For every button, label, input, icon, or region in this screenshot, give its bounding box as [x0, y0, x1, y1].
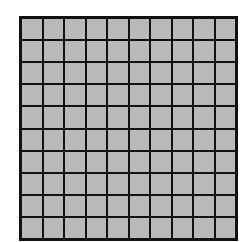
- grid-cell: [151, 152, 171, 172]
- grid-cell: [44, 41, 64, 61]
- grid-cell: [65, 41, 85, 61]
- grid-cell: [216, 130, 236, 150]
- grid-cell: [22, 41, 42, 61]
- grid-cell: [108, 130, 128, 150]
- grid-cell: [44, 107, 64, 127]
- grid-cell: [216, 85, 236, 105]
- grid-cell: [151, 130, 171, 150]
- grid-cell: [108, 107, 128, 127]
- hundred-grid: [19, 16, 238, 241]
- grid-cell: [22, 85, 42, 105]
- grid-cell: [87, 130, 107, 150]
- grid-cell: [44, 196, 64, 216]
- grid-cell: [22, 107, 42, 127]
- grid-cell: [44, 19, 64, 39]
- grid-cell: [87, 174, 107, 194]
- grid-cell: [22, 152, 42, 172]
- grid-cell: [65, 174, 85, 194]
- grid-cell: [87, 41, 107, 61]
- grid-cell: [22, 19, 42, 39]
- grid-cell: [194, 85, 214, 105]
- grid-cell: [151, 107, 171, 127]
- grid-cell: [151, 63, 171, 83]
- grid-cell: [44, 63, 64, 83]
- grid-cell: [173, 196, 193, 216]
- grid-cell: [44, 174, 64, 194]
- grid-cell: [173, 19, 193, 39]
- grid-cell: [22, 174, 42, 194]
- grid-cell: [216, 218, 236, 238]
- grid-cell: [194, 130, 214, 150]
- grid-cell: [173, 152, 193, 172]
- grid-cell: [216, 174, 236, 194]
- grid-cell: [130, 130, 150, 150]
- grid-cell: [194, 174, 214, 194]
- grid-cell: [194, 152, 214, 172]
- grid-cell: [44, 85, 64, 105]
- grid-cell: [130, 85, 150, 105]
- grid-cell: [130, 152, 150, 172]
- grid-cell: [108, 174, 128, 194]
- grid-cell: [130, 107, 150, 127]
- grid-cell: [130, 196, 150, 216]
- grid-cell: [44, 152, 64, 172]
- grid-cell: [108, 41, 128, 61]
- grid-cell: [216, 41, 236, 61]
- grid-cell: [108, 152, 128, 172]
- grid-cell: [194, 19, 214, 39]
- grid-cell: [65, 19, 85, 39]
- grid-cell: [194, 218, 214, 238]
- grid-cell: [87, 107, 107, 127]
- grid-cell: [65, 130, 85, 150]
- grid-cell: [130, 63, 150, 83]
- grid-cell: [151, 218, 171, 238]
- grid-cell: [87, 63, 107, 83]
- grid-cell: [65, 152, 85, 172]
- grid-cell: [151, 41, 171, 61]
- grid-cell: [22, 196, 42, 216]
- grid-cell: [130, 19, 150, 39]
- grid-cell: [130, 41, 150, 61]
- grid-cell: [173, 130, 193, 150]
- grid-cell: [173, 63, 193, 83]
- grid-cell: [173, 218, 193, 238]
- grid-cell: [194, 196, 214, 216]
- grid-cell: [87, 85, 107, 105]
- grid-cell: [108, 218, 128, 238]
- grid-cell: [22, 63, 42, 83]
- grid-cell: [216, 107, 236, 127]
- grid-cell: [130, 218, 150, 238]
- grid-cell: [108, 63, 128, 83]
- grid-cell: [87, 152, 107, 172]
- grid-cell: [216, 63, 236, 83]
- grid-cell: [87, 19, 107, 39]
- grid-cell: [108, 196, 128, 216]
- grid-cell: [151, 196, 171, 216]
- grid-cell: [151, 19, 171, 39]
- grid-cell: [130, 174, 150, 194]
- grid-cell: [173, 174, 193, 194]
- grid-cell: [216, 19, 236, 39]
- grid-cell: [151, 174, 171, 194]
- grid-cell: [65, 218, 85, 238]
- grid-cell: [65, 63, 85, 83]
- grid-cell: [65, 196, 85, 216]
- grid-cell: [194, 107, 214, 127]
- grid-cell: [44, 130, 64, 150]
- grid-cell: [216, 152, 236, 172]
- grid-cell: [22, 218, 42, 238]
- grid-cell: [194, 63, 214, 83]
- grid-cell: [108, 19, 128, 39]
- grid-cell: [22, 130, 42, 150]
- grid-cell: [216, 196, 236, 216]
- grid-cell: [108, 85, 128, 105]
- grid-cell: [87, 218, 107, 238]
- grid-cell: [194, 41, 214, 61]
- grid-cell: [173, 85, 193, 105]
- grid-cell: [65, 107, 85, 127]
- grid-cell: [65, 85, 85, 105]
- grid-cell: [173, 41, 193, 61]
- grid-cell: [44, 218, 64, 238]
- grid-cell: [173, 107, 193, 127]
- grid-cell: [151, 85, 171, 105]
